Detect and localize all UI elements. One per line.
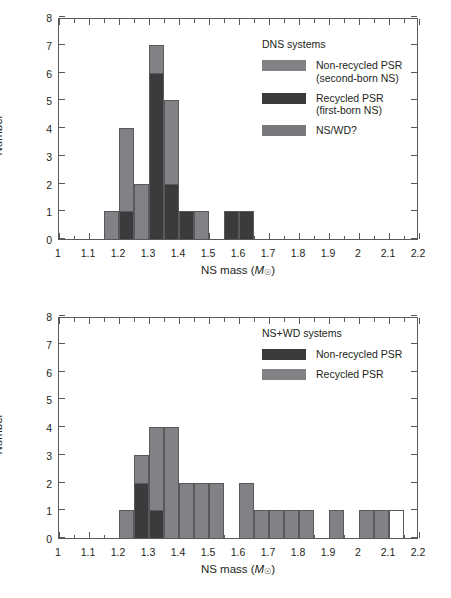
legend-title-dns: DNS systems <box>262 38 402 50</box>
legend-items-dns: Non-recycled PSR(second-born NS)Recycled… <box>262 59 402 137</box>
x-axis-tick <box>419 532 420 538</box>
y-tick-label: 6 <box>32 68 52 80</box>
histogram-bar <box>239 483 254 539</box>
y-tick-label: 1 <box>32 505 52 517</box>
x-axis-tick <box>134 535 135 539</box>
x-axis-tick <box>164 535 165 539</box>
x-axis-tick <box>359 532 360 538</box>
legend-dns: DNS systems Non-recycled PSR(second-born… <box>262 38 402 144</box>
x-tick-label: 1.2 <box>111 546 126 558</box>
x-axis-title-suffix: ) <box>271 563 275 575</box>
x-axis-tick <box>194 19 195 23</box>
histogram-bar-segment-empty <box>389 510 404 538</box>
x-axis-tick <box>374 535 375 539</box>
x-tick-label: 1.8 <box>291 546 306 558</box>
x-tick-label: 1.1 <box>81 247 96 259</box>
y-axis-tick <box>59 315 65 316</box>
histogram-bar <box>149 45 164 239</box>
histogram-bar <box>194 483 209 539</box>
y-axis-tick <box>59 454 65 455</box>
y-axis-tick <box>411 99 417 100</box>
x-tick-label: 1.3 <box>141 546 156 558</box>
y-tick-label: 4 <box>32 123 52 135</box>
histogram-bar <box>164 427 179 538</box>
x-axis-tick <box>59 318 60 324</box>
x-axis-tick <box>179 233 180 239</box>
x-axis-tick <box>104 535 105 539</box>
y-tick-label: 2 <box>32 179 52 191</box>
x-axis-title-prefix: NS mass ( <box>201 563 255 575</box>
x-axis-tick <box>224 236 225 240</box>
x-axis-tick <box>284 236 285 240</box>
x-tick-label: 2.1 <box>381 546 396 558</box>
legend-label-line: Recycled PSR <box>316 92 384 105</box>
histogram-bar <box>299 510 314 538</box>
x-tick-label: 1.4 <box>171 546 186 558</box>
legend-items-nswd: Non-recycled PSRRecycled PSR <box>262 348 402 381</box>
x-axis-tick <box>344 19 345 23</box>
x-axis-tick <box>419 318 420 324</box>
x-axis-tick <box>374 236 375 240</box>
legend-swatch <box>262 349 306 360</box>
y-axis-tick <box>411 155 417 156</box>
y-axis-tick <box>59 155 65 156</box>
x-axis-tick <box>269 318 270 324</box>
x-axis-tick <box>224 318 225 322</box>
legend-nswd: NS+WD systems Non-recycled PSRRecycled P… <box>262 327 402 388</box>
x-axis-tick <box>359 233 360 239</box>
y-tick-label: 7 <box>32 40 52 52</box>
y-axis-tick <box>59 183 65 184</box>
histogram-bar-segment-light <box>254 510 269 538</box>
y-axis-tick <box>411 238 417 239</box>
x-axis-tick <box>209 318 210 324</box>
x-axis-tick <box>149 532 150 538</box>
histogram-bar-segment-light <box>284 510 299 538</box>
y-axis-tick <box>59 482 65 483</box>
legend-item-label: NS/WD? <box>316 124 357 137</box>
x-axis-tick <box>134 19 135 23</box>
x-axis-tick <box>284 19 285 23</box>
y-axis-tick <box>411 482 417 483</box>
x-tick-label: 1 <box>55 546 61 558</box>
histogram-bar-segment-dark <box>149 510 164 538</box>
x-tick-label: 1.3 <box>141 247 156 259</box>
y-axis-tick <box>411 509 417 510</box>
x-axis-tick <box>404 318 405 322</box>
x-axis-tick <box>239 19 240 25</box>
x-axis-tick <box>254 19 255 23</box>
x-axis-tick <box>134 318 135 322</box>
histogram-bar-segment-light <box>164 100 179 183</box>
y-axis-tick <box>411 72 417 73</box>
x-axis-tick <box>224 19 225 23</box>
y-axis-tick <box>59 537 65 538</box>
x-axis-tick <box>149 19 150 25</box>
x-axis-tick <box>344 236 345 240</box>
x-axis-tick <box>194 318 195 322</box>
histogram-bar <box>164 100 179 239</box>
x-tick-label: 2 <box>355 247 361 259</box>
y-axis-title-nswd: Number <box>0 414 4 455</box>
x-axis-tick <box>209 19 210 25</box>
y-axis-tick <box>59 44 65 45</box>
legend-item-label: Non-recycled PSR <box>316 348 402 361</box>
x-axis-tick <box>359 318 360 324</box>
histogram-bar-segment-light <box>134 455 149 483</box>
x-axis-tick <box>149 233 150 239</box>
x-axis-tick <box>74 19 75 23</box>
x-tick-label: 1.9 <box>321 546 336 558</box>
histogram-bar <box>119 510 134 538</box>
x-axis-tick <box>104 318 105 322</box>
legend-swatch <box>262 125 306 136</box>
y-tick-label: 2 <box>32 478 52 490</box>
x-axis-tick <box>74 535 75 539</box>
x-axis-tick <box>404 535 405 539</box>
y-tick-label: 5 <box>32 394 52 406</box>
x-axis-tick <box>164 19 165 23</box>
x-axis-tick <box>89 318 90 324</box>
x-axis-tick <box>344 535 345 539</box>
legend-title-nswd: NS+WD systems <box>262 327 402 339</box>
x-axis-tick <box>389 19 390 25</box>
x-axis-tick <box>299 19 300 25</box>
y-axis-tick <box>411 398 417 399</box>
legend-swatch <box>262 93 306 104</box>
